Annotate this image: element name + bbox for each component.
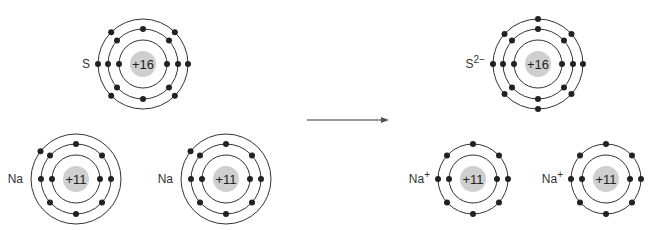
electron — [603, 141, 609, 147]
electron — [511, 61, 517, 67]
electron — [535, 96, 541, 102]
electron — [49, 176, 55, 182]
electron — [502, 91, 508, 97]
atom-na2p: +11Na+ — [542, 141, 644, 217]
electron — [47, 199, 53, 205]
electron — [99, 199, 105, 205]
electron — [116, 61, 122, 67]
electron — [140, 26, 146, 32]
electron — [509, 38, 515, 44]
nucleus-charge: +11 — [462, 172, 483, 187]
electron — [197, 153, 203, 159]
electron — [603, 211, 609, 217]
electron — [249, 199, 255, 205]
atom-label: Na — [158, 172, 174, 186]
arrow-head-icon — [381, 117, 389, 123]
electron — [446, 176, 452, 182]
electron — [444, 153, 450, 159]
electron — [568, 91, 574, 97]
electron — [188, 148, 194, 154]
electron — [580, 61, 586, 67]
electron — [247, 176, 253, 182]
electron — [249, 153, 255, 159]
nucleus-charge: +16 — [132, 57, 154, 72]
nucleus-charge: +16 — [527, 57, 549, 72]
electron — [496, 199, 502, 205]
electron — [223, 141, 229, 147]
electron — [568, 176, 574, 182]
electron — [577, 153, 583, 159]
electron — [561, 84, 567, 90]
electron — [490, 61, 496, 67]
electron — [629, 199, 635, 205]
electron — [108, 176, 114, 182]
electron — [561, 38, 567, 44]
electron — [47, 153, 53, 159]
electron — [114, 38, 120, 44]
electron — [629, 153, 635, 159]
electron — [188, 176, 194, 182]
electron — [627, 176, 633, 182]
electron — [73, 211, 79, 217]
atom-s: +16S — [82, 19, 191, 109]
electron — [638, 176, 644, 182]
atom-na1: +11Na — [8, 134, 121, 224]
electron — [494, 176, 500, 182]
electron — [258, 176, 264, 182]
electron — [509, 84, 515, 90]
atom-s2: +16S2− — [466, 16, 586, 112]
charge-superscript: + — [424, 169, 430, 180]
electron — [579, 176, 585, 182]
electron — [108, 29, 114, 35]
electron — [38, 148, 44, 154]
electron — [140, 96, 146, 102]
atom-na2: +11Na — [158, 134, 271, 224]
atom-na1p: +11Na+ — [409, 141, 511, 217]
electron — [99, 153, 105, 159]
electron — [535, 106, 541, 112]
electron — [577, 199, 583, 205]
electron — [95, 61, 101, 67]
electron — [570, 61, 576, 67]
electron — [175, 61, 181, 67]
atom-label: S — [82, 57, 90, 71]
electron — [502, 31, 508, 37]
electron — [108, 93, 114, 99]
electron — [500, 61, 506, 67]
electron — [164, 61, 170, 67]
electron — [114, 84, 120, 90]
electron — [199, 176, 205, 182]
electron — [97, 176, 103, 182]
electron — [535, 16, 541, 22]
electron — [435, 176, 441, 182]
nucleus-charge: +11 — [595, 172, 616, 187]
electron-transfer-diagram: +16S+11Na+11Na+16S2−+11Na++11Na+ — [0, 0, 658, 230]
charge-superscript: 2− — [474, 54, 486, 65]
electron — [73, 141, 79, 147]
electron — [444, 199, 450, 205]
electron — [166, 38, 172, 44]
electron — [105, 61, 111, 67]
electron — [172, 29, 178, 35]
nucleus-charge: +11 — [65, 172, 86, 187]
atom-label: Na+ — [409, 169, 430, 186]
atom-label: S2− — [466, 54, 486, 71]
electron — [559, 61, 565, 67]
charge-superscript: + — [557, 169, 563, 180]
nucleus-charge: +11 — [215, 172, 236, 187]
electron — [470, 141, 476, 147]
atom-label: Na — [8, 172, 24, 186]
electron — [496, 153, 502, 159]
electron — [568, 31, 574, 37]
electron — [223, 211, 229, 217]
electron — [535, 26, 541, 32]
electron — [197, 199, 203, 205]
electron — [166, 84, 172, 90]
atom-label: Na+ — [542, 169, 563, 186]
electron — [185, 61, 191, 67]
electron — [505, 176, 511, 182]
electron — [172, 93, 178, 99]
electron — [470, 211, 476, 217]
electron — [38, 176, 44, 182]
